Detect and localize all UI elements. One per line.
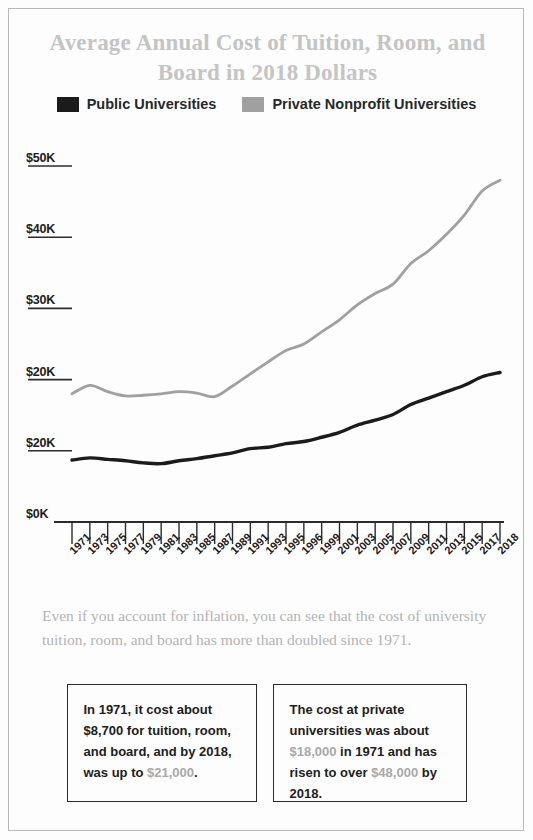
y-axis-label-0: $0K [26, 507, 48, 521]
line-chart [0, 130, 533, 600]
y-axis-label-3: $30K [26, 293, 55, 307]
private-callout-part-0: The cost at private universities was abo… [290, 702, 429, 738]
y-axis-label-2: $20K [26, 365, 55, 379]
legend-label-private: Private Nonprofit Universities [272, 96, 476, 112]
private-callout-part-3: $48,000 [371, 765, 418, 780]
public-callout-box: In 1971, it cost about $8,700 for tuitio… [67, 684, 257, 802]
public-swatch-icon [57, 97, 79, 112]
callout-boxes: In 1971, it cost about $8,700 for tuitio… [0, 684, 533, 802]
page-title: Average Annual Cost of Tuition, Room, an… [40, 28, 495, 88]
y-axis-label-4: $40K [26, 222, 55, 236]
public-callout-text: In 1971, it cost about $8,700 for tuitio… [84, 702, 232, 780]
private-callout-box: The cost at private universities was abo… [273, 684, 467, 802]
public-callout-part-1: $21,000 [147, 765, 194, 780]
series-line-public [72, 372, 500, 463]
chart-caption: Even if you account for inflation, you c… [42, 604, 492, 652]
private-callout-text: The cost at private universities was abo… [290, 702, 437, 801]
private-swatch-icon [242, 97, 264, 112]
legend-label-public: Public Universities [87, 96, 217, 112]
series-line-private [72, 180, 500, 397]
y-axis-label-1: $20K [26, 436, 55, 450]
private-callout-part-1: $18,000 [290, 744, 337, 759]
chart-plot-area: $0K$20K$20K$30K$40K$50K 1971197319751977… [0, 130, 533, 600]
public-callout-part-2: . [194, 765, 198, 780]
legend-item-public: Public Universities [57, 96, 217, 112]
infographic-container: Average Annual Cost of Tuition, Room, an… [0, 0, 533, 840]
chart-legend: Public Universities Private Nonprofit Un… [0, 96, 533, 112]
y-axis-label-5: $50K [26, 151, 55, 165]
legend-item-private: Private Nonprofit Universities [242, 96, 476, 112]
